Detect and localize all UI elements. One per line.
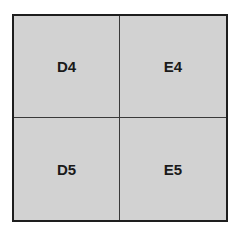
cell-d4: D4 xyxy=(14,16,120,118)
cell-e5: E5 xyxy=(120,118,226,220)
cell-label: D4 xyxy=(57,58,76,75)
cell-label: E4 xyxy=(164,58,182,75)
cell-label: E5 xyxy=(164,161,182,178)
cell-d5: D5 xyxy=(14,118,120,220)
cell-label: D5 xyxy=(57,161,76,178)
grid-diagram: D4 E4 D5 E5 xyxy=(12,14,228,222)
cell-e4: E4 xyxy=(120,16,226,118)
